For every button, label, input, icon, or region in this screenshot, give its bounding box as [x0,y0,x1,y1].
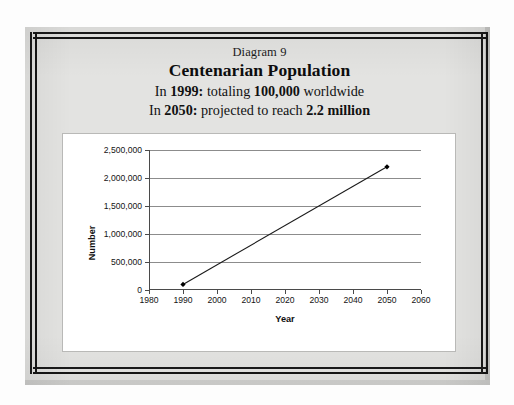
y-axis-tick-label: 1,000,000 [104,229,142,239]
x-axis-tick [421,290,422,294]
x-axis-title: Year [149,314,421,324]
series-marker [180,282,185,287]
x-axis-tick-label: 2030 [309,295,328,305]
diagram-label: Diagram 9 [43,45,476,59]
subtitle-1-suffix: worldwide [300,83,364,99]
x-axis-tick-label: 1990 [173,295,192,305]
x-axis-tick-label: 1980 [139,295,158,305]
slide-heading-block: Diagram 9 Centenarian Population In 1999… [43,45,476,120]
data-series-line [149,150,421,290]
border-rule-left-outer [30,32,32,374]
x-axis-tick [183,290,184,294]
x-axis-tick-label: 2050 [377,295,396,305]
border-rule-top-inner [33,37,488,39]
x-axis-tick [285,290,286,294]
y-axis-title: Number [87,225,97,260]
subtitle-line-1: In 1999: totaling 100,000 worldwide [43,82,476,101]
subtitle-2-value: 2.2 million [306,102,370,118]
border-rule-bottom-outer [33,372,488,374]
x-axis-tick-label: 2010 [241,295,260,305]
border-rule-top-outer [33,32,488,34]
x-axis-tick [251,290,252,294]
border-rule-right-inner [481,32,483,374]
x-axis-tick-label: 2040 [343,295,362,305]
subtitle-2-prefix: In [149,102,164,118]
slide-title: Centenarian Population [43,59,476,82]
y-axis-tick-label: 1,500,000 [104,201,142,211]
chart-container: Number 0500,0001,000,0001,500,0002,000,0… [62,133,456,352]
x-axis-tick [149,290,150,294]
x-axis-tick [319,290,320,294]
y-axis-tick-label: 0 [137,285,142,295]
subtitle-line-2: In 2050: projected to reach 2.2 million [43,101,476,120]
border-rule-bottom-inner [33,367,488,369]
border-rule-left-inner [35,32,37,374]
subtitle-1-year: 1999: [170,83,203,99]
x-axis-tick [387,290,388,294]
subtitle-1-prefix: In [155,83,170,99]
x-axis-tick-label: 2060 [411,295,430,305]
y-axis-tick-label: 500,000 [111,257,142,267]
x-axis-tick [217,290,218,294]
y-axis-tick-label: 2,500,000 [104,145,142,155]
x-axis-tick [353,290,354,294]
scanned-page: Diagram 9 Centenarian Population In 1999… [0,0,514,405]
y-axis-tick-label: 2,000,000 [104,173,142,183]
x-axis-tick-label: 2020 [275,295,294,305]
series-marker [384,164,389,169]
x-axis-tick-label: 2000 [207,295,226,305]
plot-area: 0500,0001,000,0001,500,0002,000,0002,500… [149,150,421,290]
subtitle-2-year: 2050: [164,102,197,118]
border-rule-right-outer [486,32,488,374]
series-line [183,167,387,285]
subtitle-1-mid: totaling [203,83,253,99]
presentation-slide: Diagram 9 Centenarian Population In 1999… [25,27,490,385]
subtitle-2-mid: projected to reach [197,102,306,118]
slide-bottom-shadow [25,380,490,385]
subtitle-1-value: 100,000 [254,83,300,99]
